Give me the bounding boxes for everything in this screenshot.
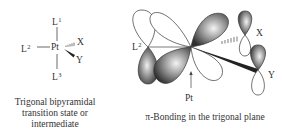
left-caption-line-2: transition state or xyxy=(0,108,110,119)
label-y: Y xyxy=(76,55,83,65)
label-l3: L3 xyxy=(52,70,62,82)
y-orbital-upper-lobe xyxy=(251,45,266,70)
x-orbital-lower-lobe xyxy=(239,35,250,56)
label-l1: L1 xyxy=(52,15,62,27)
label-right-pt: Pt xyxy=(185,93,193,103)
left-caption: Trigonal bipyramidal transition state or… xyxy=(0,97,110,130)
pt-d-lobe-lower-left xyxy=(154,47,191,83)
pi-bonding-orbitals xyxy=(133,10,266,95)
right-caption: π-Bonding in the trigonal plane xyxy=(128,112,282,123)
pt-d-lobe-upper-right xyxy=(191,13,228,47)
label-l2: L2 xyxy=(21,42,31,54)
label-right-y: Y xyxy=(268,70,275,80)
label-right-l2: L2 xyxy=(132,40,142,52)
hashed-bond-pt-x xyxy=(222,37,237,45)
diagram-stage: L1 L2 Pt X Y L3 Trigonal bipyramidal tra… xyxy=(0,0,282,137)
hashed-bond-x xyxy=(66,43,74,47)
label-right-x: X xyxy=(256,28,263,38)
left-caption-line-1: Trigonal bipyramidal xyxy=(0,97,110,108)
pt-d-lobe-lower-right xyxy=(191,47,223,81)
y-orbital-lower-lobe xyxy=(252,70,265,95)
pt-arrow-head xyxy=(189,71,192,75)
wedge-bond-y xyxy=(64,49,75,58)
pt-d-lobe-upper-left xyxy=(150,12,191,47)
label-x: X xyxy=(77,37,84,47)
left-caption-line-3: intermediate xyxy=(0,119,110,130)
label-pt: Pt xyxy=(51,42,59,52)
x-orbital-upper-lobe xyxy=(238,11,252,35)
